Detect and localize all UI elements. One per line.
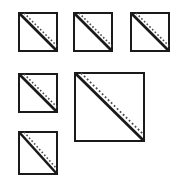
top-center-square bbox=[73, 12, 113, 52]
center-large-square bbox=[74, 72, 145, 142]
middle-left-square bbox=[18, 73, 58, 113]
figure-canvas: Array of squares with diagonal split lin… bbox=[0, 0, 185, 192]
top-right-square bbox=[130, 12, 170, 52]
top-left-square bbox=[18, 12, 58, 52]
bottom-left-square bbox=[18, 131, 58, 175]
